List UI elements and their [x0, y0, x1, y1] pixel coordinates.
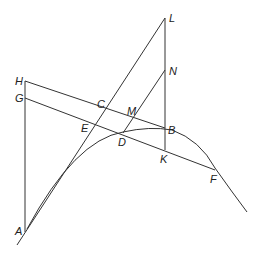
line-GF	[25, 98, 215, 170]
label-C: C	[97, 98, 105, 110]
label-F: F	[210, 173, 218, 185]
label-G: G	[15, 92, 24, 104]
label-N: N	[169, 65, 177, 77]
label-A: A	[14, 225, 22, 237]
label-H: H	[15, 75, 23, 87]
label-D: D	[118, 136, 126, 148]
label-K: K	[160, 153, 168, 165]
label-B: B	[168, 124, 175, 136]
label-L: L	[169, 12, 175, 24]
line-AL	[17, 18, 165, 245]
line-DN	[123, 70, 165, 133]
line-HB	[25, 81, 165, 128]
label-M: M	[127, 105, 137, 117]
geometry-diagram: L N H G C M E D B K F A	[0, 0, 263, 256]
label-E: E	[81, 122, 89, 134]
